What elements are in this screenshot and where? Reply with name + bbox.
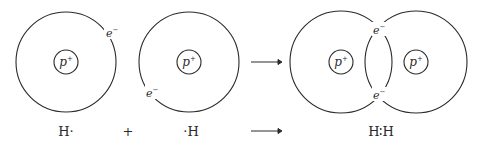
product-formula: H∶H	[368, 124, 394, 139]
hydrogen-bond-diagram: p+ p+ p+ p+ e− e− e− e− H· + ·H H∶H	[0, 0, 480, 147]
arrow-head-top	[278, 60, 282, 65]
atom1-proton-label: p+	[59, 55, 73, 69]
molecule-left-proton-label: p+	[334, 55, 348, 69]
reactant2-formula: ·H	[183, 124, 198, 139]
reactant1-formula: H·	[58, 124, 73, 139]
plus-sign: +	[123, 124, 134, 139]
atom2-proton-label: p+	[182, 55, 196, 69]
molecule-right-proton-label: p+	[409, 55, 423, 69]
arrow-head-bottom	[278, 129, 282, 134]
